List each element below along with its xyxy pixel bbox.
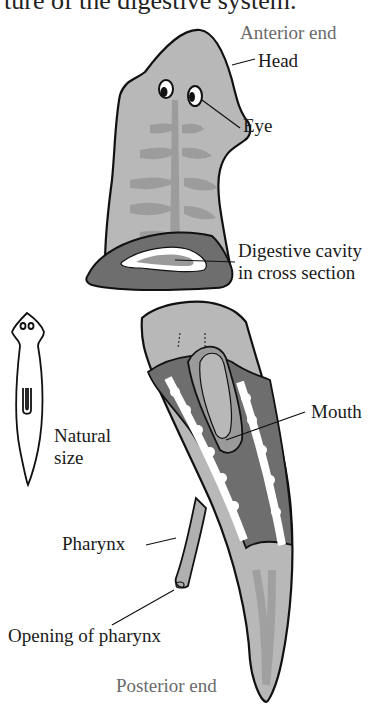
label-anterior-end: Anterior end: [240, 22, 337, 43]
label-eye: Eye: [243, 115, 273, 136]
anterior-section: [86, 30, 255, 290]
label-digestive-cavity-2: in cross section: [238, 262, 355, 283]
label-digestive-cavity-1: Digestive cavity: [238, 240, 362, 261]
label-pharynx: Pharynx: [62, 533, 125, 554]
label-posterior-end: Posterior end: [116, 675, 217, 696]
label-mouth: Mouth: [311, 401, 362, 422]
label-natural-size-2: size: [54, 447, 84, 468]
label-natural-size-1: Natural: [54, 425, 111, 446]
pharynx-tube: [176, 498, 206, 588]
label-opening-of-pharynx: Opening of pharynx: [8, 625, 161, 646]
natural-size-figure: [12, 313, 44, 485]
planarian-diagram: [0, 0, 391, 716]
label-head: Head: [258, 50, 298, 71]
